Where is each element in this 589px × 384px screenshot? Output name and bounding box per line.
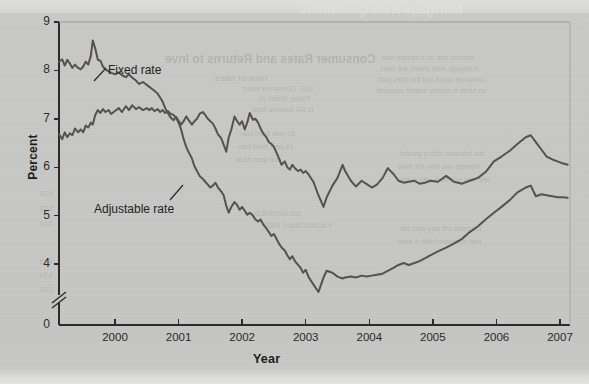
y-axis-tick-label: 0 bbox=[24, 317, 50, 331]
series-label-fixed-rate: Fixed rate bbox=[108, 63, 161, 77]
y-axis-tick-label: 4 bbox=[24, 256, 50, 270]
x-axis-tick-label: 2002 bbox=[219, 331, 265, 343]
y-axis-tick-label: 8 bbox=[24, 62, 50, 76]
y-axis-tick-label: 6 bbox=[24, 159, 50, 173]
x-axis-tick-label: 2006 bbox=[473, 331, 519, 343]
y-axis-tick-label: 5 bbox=[24, 208, 50, 222]
y-axis-tick-label: 9 bbox=[24, 14, 50, 28]
mortgage-rates-line-chart: Percent Year 0456789 2000200120022003200… bbox=[0, 0, 589, 384]
series-group bbox=[59, 40, 568, 292]
leader-line-adjustable-rate bbox=[170, 185, 183, 200]
x-axis-title: Year bbox=[253, 352, 280, 366]
x-axis-tick-label: 2001 bbox=[156, 331, 202, 343]
y-axis-title: Percent bbox=[26, 117, 40, 197]
leader-line-fixed-rate bbox=[94, 68, 106, 81]
x-axis-tick-label: 2003 bbox=[283, 331, 329, 343]
x-axis-tick-label: 2000 bbox=[92, 331, 138, 343]
y-axis-tick-label: 7 bbox=[24, 111, 50, 125]
series-label-adjustable-rate: Adjustable rate bbox=[94, 202, 174, 216]
x-axis-tick-label: 2007 bbox=[537, 331, 583, 343]
x-axis-tick-label: 2005 bbox=[410, 331, 456, 343]
annotation-leader-lines bbox=[94, 68, 183, 200]
plot-svg bbox=[0, 0, 589, 384]
x-axis-tick-label: 2004 bbox=[346, 331, 392, 343]
series-line-adjustable-rate bbox=[59, 105, 568, 292]
